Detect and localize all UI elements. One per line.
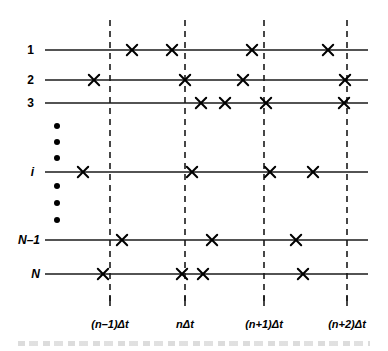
row-label-2: 2: [0, 73, 34, 87]
time-axis-label-2: nΔt: [176, 318, 194, 330]
row-label-1: 1: [0, 43, 34, 57]
time-axis-label-4: (n+2)Δt: [328, 318, 366, 330]
row-label-N1: N–1: [0, 233, 40, 247]
dashed-gridlines-group: [110, 20, 347, 302]
timeline-diagram: [0, 0, 388, 351]
ellipsis-upper-dot-1: [54, 123, 60, 129]
time-axis-label-1: (n–1)Δt: [91, 318, 128, 330]
figure-container: 123iN–1N (n–1)ΔtnΔt(n+1)Δt(n+2)Δt: [0, 0, 388, 351]
ellipsis-upper-dot-2: [54, 139, 60, 145]
caption-partial-text: [18, 341, 370, 346]
ellipsis-lower-dot-1: [54, 183, 60, 189]
ellipsis-lower-dot-2: [54, 200, 60, 206]
row-label-3: 3: [0, 96, 34, 110]
ellipsis-upper-dot-3: [54, 155, 60, 161]
tick-marks-group: [110, 296, 347, 306]
ellipsis-lower-dot-3: [54, 217, 60, 223]
time-axis-label-3: (n+1)Δt: [245, 318, 283, 330]
row-label-N: N: [0, 267, 40, 281]
row-axis-lines-group: [45, 50, 368, 274]
ellipsis-dots-group: [54, 123, 60, 223]
row-label-i: i: [0, 165, 34, 179]
